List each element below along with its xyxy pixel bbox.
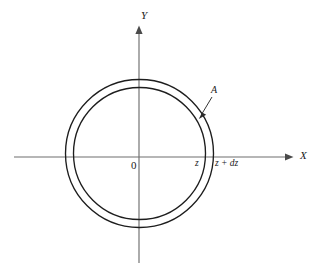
y-axis-label: Y [141,10,147,21]
inner-radius-label: z [195,159,199,169]
diagram-canvas [0,0,320,273]
annulus-diagram: X Y 0 z z + dz A [0,0,320,273]
origin-label: 0 [131,160,137,171]
y-axis-arrowhead-icon [135,26,142,35]
area-leader-segment [202,97,213,115]
outer-radius-label: z + dz [215,159,238,169]
x-axis-label: X [300,150,307,161]
x-axis [14,153,294,160]
area-leader-line [199,97,212,119]
x-axis-arrowhead-icon [285,153,294,160]
area-label: A [211,85,217,95]
